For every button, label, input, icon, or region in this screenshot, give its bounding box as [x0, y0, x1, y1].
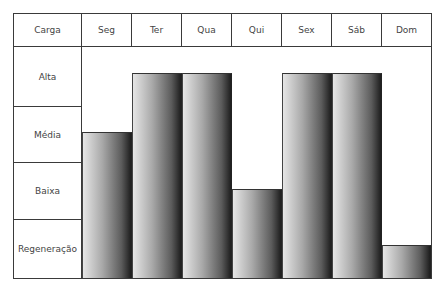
day-header-sab: Sáb: [332, 14, 382, 47]
bar-sab: [332, 73, 382, 278]
row-label-alta: Alta: [14, 47, 82, 107]
bar-qua: [182, 73, 232, 278]
bar-seg: [82, 132, 132, 278]
training-load-chart: Carga Seg Ter Qua Qui Sex Sáb Dom Alta M…: [13, 13, 432, 279]
day-header-dom: Dom: [382, 14, 431, 47]
day-header-sex: Sex: [282, 14, 332, 47]
bar-sex: [282, 73, 332, 278]
row-label-baixa: Baixa: [14, 163, 82, 220]
day-header-qui: Qui: [232, 14, 282, 47]
day-header-ter: Ter: [132, 14, 182, 47]
day-header-seg: Seg: [82, 14, 132, 47]
bar-ter: [132, 73, 182, 278]
corner-header: Carga: [14, 14, 82, 47]
bar-dom: [382, 245, 431, 278]
row-label-media: Média: [14, 107, 82, 163]
day-header-qua: Qua: [182, 14, 232, 47]
bar-qui: [232, 189, 282, 278]
row-label-regeneracao: Regeneração: [14, 220, 82, 278]
